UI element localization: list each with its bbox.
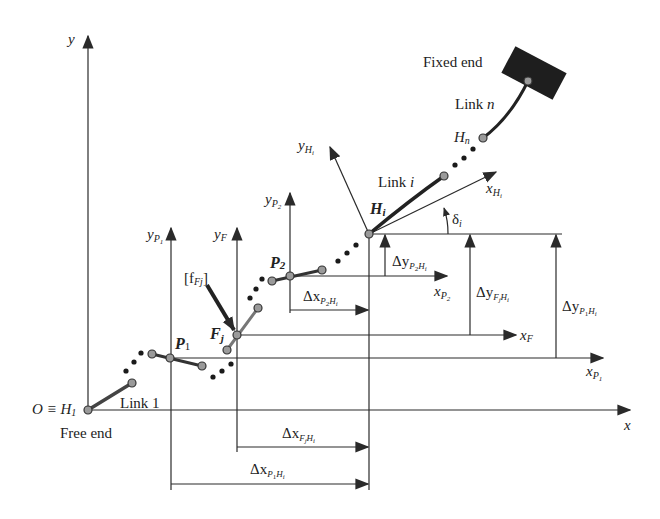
label-global-y: y: [66, 31, 75, 47]
label-delta-i: δi: [452, 211, 462, 229]
label-x-p2: xP2: [433, 283, 451, 303]
continuum-robot-frames-diagram: y x O ≡ H1 Free end Link 1 yP1 yF yP2 yH…: [0, 0, 660, 519]
label-y-hi: yHi: [296, 137, 314, 157]
label-fj: Fj: [209, 325, 225, 344]
label-y-f: yF: [212, 226, 228, 243]
label-x-f: xF: [519, 327, 534, 344]
joint-hn: [479, 134, 487, 142]
force-arrow: [207, 285, 234, 330]
label-p2: P2: [269, 254, 286, 271]
link-p1: [152, 354, 202, 366]
label-link-n: Link n: [455, 96, 495, 112]
label-hi: Hi: [369, 200, 386, 218]
label-x-hi: xHi: [485, 180, 502, 200]
joints: [84, 77, 532, 414]
label-dx-fjhi: ΔxFjHi: [282, 425, 315, 445]
joint-p2: [286, 272, 294, 280]
label-fixed-end: Fixed end: [423, 54, 483, 70]
label-force: [fFj]: [184, 270, 208, 287]
label-y-p2: yP2: [263, 191, 282, 211]
label-global-x: x: [623, 417, 631, 433]
label-dy-p1hi: ΔyP1Hi: [562, 298, 597, 318]
label-dy-p2hi: ΔyP2Hi: [392, 253, 427, 273]
diagram-canvas: y x O ≡ H1 Free end Link 1 yP1 yF yP2 yH…: [0, 0, 660, 519]
joint-h1: [84, 406, 92, 414]
label-y-p1: yP1: [145, 226, 163, 246]
fixed-end-block: [501, 46, 566, 100]
label-free-end: Free end: [60, 425, 113, 441]
joint-p1: [166, 354, 174, 362]
label-dy-fjhi: ΔyFjHi: [476, 284, 509, 304]
label-link-1: Link 1: [120, 395, 160, 411]
label-origin: O ≡ H1: [32, 401, 76, 418]
label-x-p1: xP1: [585, 363, 602, 383]
label-link-i: Link i: [378, 174, 414, 190]
y-hi-axis: [330, 147, 369, 234]
label-p1: P1: [174, 335, 190, 352]
joint-fj: [233, 331, 241, 339]
delta-angle-arc: [444, 208, 448, 234]
joint-hi: [365, 230, 373, 238]
label-hn: Hn: [453, 129, 470, 146]
label-dx-p2hi: ΔxP2Hi: [303, 288, 338, 308]
label-dx-p1hi: ΔxP1Hi: [250, 461, 285, 481]
